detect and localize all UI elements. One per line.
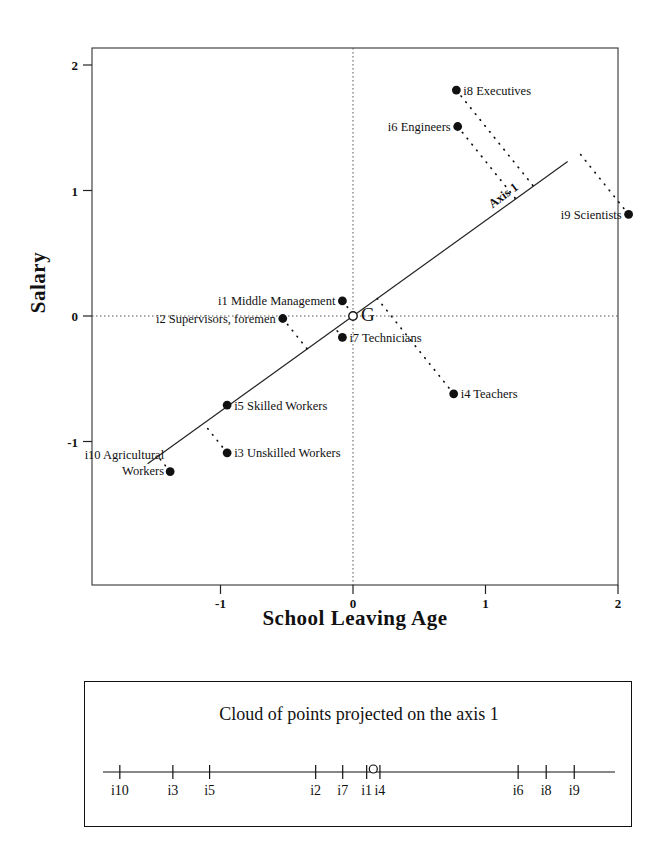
data-point[interactable] (453, 122, 462, 131)
data-point[interactable] (166, 467, 175, 476)
projection-tick-label: i1 (361, 783, 372, 798)
data-point[interactable] (223, 448, 232, 457)
y-tick-label: 1 (72, 184, 79, 199)
projector-line (377, 299, 453, 394)
projection-tick-label: i6 (513, 783, 524, 798)
point-label: i2 Supervisors, foremen (156, 312, 277, 326)
figure-root: Salary School Leaving Age -1012-1012Axis… (0, 0, 664, 859)
projection-tick-label: i9 (569, 783, 580, 798)
projection-tick-label: i5 (204, 783, 215, 798)
origin-label: G (361, 304, 375, 325)
point-label: i4 Teachers (461, 387, 518, 401)
point-label: i1 Middle Management (218, 294, 336, 308)
data-point[interactable] (278, 314, 287, 323)
projection-tick-label: i8 (541, 783, 552, 798)
point-label: i7 Technicians (349, 331, 421, 345)
y-tick-label: -1 (67, 435, 78, 450)
origin-marker (349, 312, 357, 320)
data-point[interactable] (624, 210, 633, 219)
data-point[interactable] (449, 389, 458, 398)
scatter-svg: -1012-1012Axis 1i1 Middle Managementi2 S… (0, 0, 664, 650)
data-point[interactable] (452, 86, 461, 95)
projection-tick-label: i2 (310, 783, 321, 798)
projection-panel: Cloud of points projected on the axis 1 … (84, 681, 632, 827)
projection-tick-label: i7 (337, 783, 348, 798)
projection-tick-label: i3 (167, 783, 178, 798)
projection-panel-title: Cloud of points projected on the axis 1 (85, 704, 633, 725)
y-tick-label: 0 (72, 309, 79, 324)
y-tick-label: 2 (72, 58, 79, 73)
axis-1-label: Axis 1 (486, 180, 521, 211)
projection-tick-label: i10 (111, 783, 129, 798)
x-axis-label: School Leaving Age (92, 606, 618, 631)
data-point[interactable] (223, 401, 232, 410)
point-label: i10 Agricultural (85, 448, 165, 462)
projector-line (579, 153, 628, 214)
projector-line (283, 319, 307, 349)
point-label: i3 Unskilled Workers (234, 446, 341, 460)
data-point[interactable] (338, 333, 347, 342)
data-point[interactable] (338, 297, 347, 306)
projection-tick-label: i4 (374, 783, 385, 798)
point-label: i6 Engineers (388, 120, 451, 134)
y-axis-label: Salary (26, 223, 51, 343)
projector-line (204, 424, 227, 453)
point-label: Workers (122, 464, 164, 478)
point-label: i9 Scientists (561, 208, 622, 222)
point-label: i5 Skilled Workers (234, 399, 327, 413)
point-label: i8 Executives (463, 84, 531, 98)
projection-origin-marker (369, 765, 377, 773)
scatter-plot-panel: Salary School Leaving Age -1012-1012Axis… (0, 0, 664, 650)
